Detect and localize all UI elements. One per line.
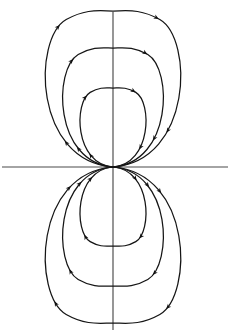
upper-loop-large-arrow-1 [165,127,171,134]
upper-loop-medium-arrow-1 [151,135,157,142]
upper-loop-large-arrow-2 [153,15,160,21]
dipole-field-figure [0,0,230,336]
upper-loop-medium-arrow-2 [142,50,149,56]
upper-loop-small-arrow-1 [137,144,143,151]
dipole-field-svg [0,0,230,336]
axes-group [2,12,228,330]
upper-loop-small-arrow-2 [130,88,137,94]
